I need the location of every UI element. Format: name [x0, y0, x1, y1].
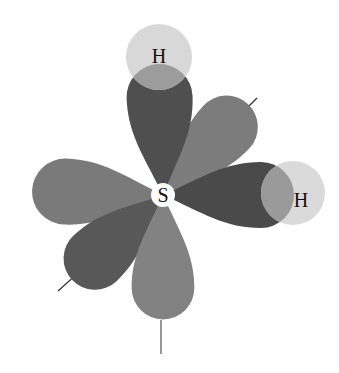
hydrogen-label-top: H — [152, 45, 166, 67]
sulfur-label: S — [157, 184, 168, 206]
h2s-orbital-diagram: H H S — [0, 0, 339, 373]
sulfur-atom: S — [151, 183, 175, 207]
hydrogen-label-right: H — [294, 189, 308, 211]
hydrogen-atom-top: H — [126, 24, 192, 90]
hydrogen-atom-right: H — [261, 161, 325, 225]
